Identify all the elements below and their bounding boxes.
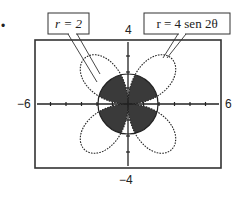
callout-rose-label: r = 4 sen 2θ [156,16,217,31]
y-min-label: −4 [119,173,133,187]
x-max-label: 6 [225,97,232,111]
bullet-marker: • [1,19,5,33]
callout-circle-label: r = 2 [55,16,82,31]
y-max-label: 4 [125,23,132,37]
x-min-label: −6 [17,97,31,111]
polar-graph-figure: • −6 6 4 −4 r = 2 r = 4 sen 2θ [0,0,247,204]
